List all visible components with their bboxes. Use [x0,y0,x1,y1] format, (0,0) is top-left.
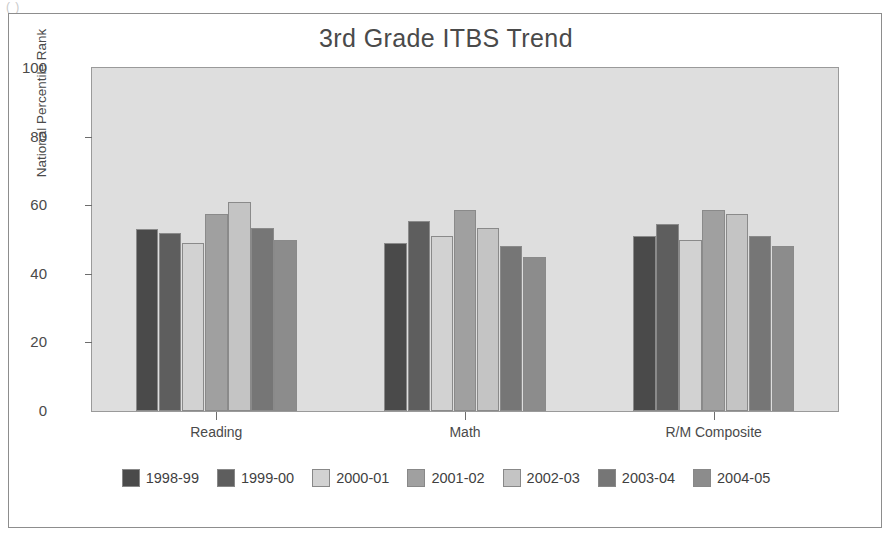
y-tick-mark [85,137,92,138]
y-tick-mark [85,274,92,275]
legend-swatch-icon [312,469,330,487]
x-category-label: Math [365,424,565,440]
bar [679,240,702,412]
bar [500,246,523,411]
legend-item[interactable]: 2004-05 [693,469,770,487]
legend-swatch-icon [407,469,425,487]
chart-legend: 1998-991999-002000-012001-022002-032003-… [9,469,883,487]
legend-swatch-icon [693,469,711,487]
bar [136,229,159,411]
bar [228,202,251,411]
legend-swatch-icon [503,469,521,487]
legend-swatch-icon [217,469,235,487]
bar [408,221,431,411]
bar [726,214,749,411]
y-tick-label: 0 [0,402,47,419]
bar [772,246,795,411]
legend-label: 2001-02 [431,470,484,486]
plot-area: National Percentile Rank 020406080100 Re… [91,67,839,412]
y-tick-label: 40 [0,265,47,282]
legend-label: 1999-00 [241,470,294,486]
x-tick-mark [216,412,217,420]
y-tick-label: 80 [0,128,47,145]
legend-label: 1998-99 [146,470,199,486]
bar [251,228,274,412]
legend-label: 2004-05 [717,470,770,486]
chart-frame: 3rd Grade ITBS Trend National Percentile… [8,13,882,528]
bar [749,236,772,411]
bar [159,233,182,411]
y-tick-label: 100 [0,59,47,76]
legend-swatch-icon [122,469,140,487]
legend-label: 2002-03 [527,470,580,486]
legend-swatch-icon [598,469,616,487]
y-tick-mark [85,205,92,206]
plot-inner: National Percentile Rank 020406080100 Re… [92,68,838,411]
x-category-label: Reading [116,424,316,440]
bar [454,210,477,411]
legend-item[interactable]: 2000-01 [312,469,389,487]
legend-item[interactable]: 1999-00 [217,469,294,487]
x-category-label: R/M Composite [614,424,814,440]
y-tick-label: 60 [0,196,47,213]
x-tick-mark [714,412,715,420]
bar [384,243,407,411]
bar [656,224,679,411]
x-tick-mark [465,412,466,420]
chart-title: 3rd Grade ITBS Trend [9,24,883,53]
y-axis-title: National Percentile Rank [34,0,49,218]
bar [477,228,500,412]
legend-item[interactable]: 1998-99 [122,469,199,487]
bar [205,214,228,411]
y-tick-mark [85,342,92,343]
legend-label: 2003-04 [622,470,675,486]
scan-artifact-text: ( ) [0,0,892,12]
bar [702,210,725,411]
legend-label: 2000-01 [336,470,389,486]
bar [633,236,656,411]
legend-item[interactable]: 2001-02 [407,469,484,487]
bar [431,236,454,411]
legend-item[interactable]: 2002-03 [503,469,580,487]
bar [274,240,297,412]
y-tick-label: 20 [0,333,47,350]
legend-item[interactable]: 2003-04 [598,469,675,487]
bar [523,257,546,411]
bar [182,243,205,411]
